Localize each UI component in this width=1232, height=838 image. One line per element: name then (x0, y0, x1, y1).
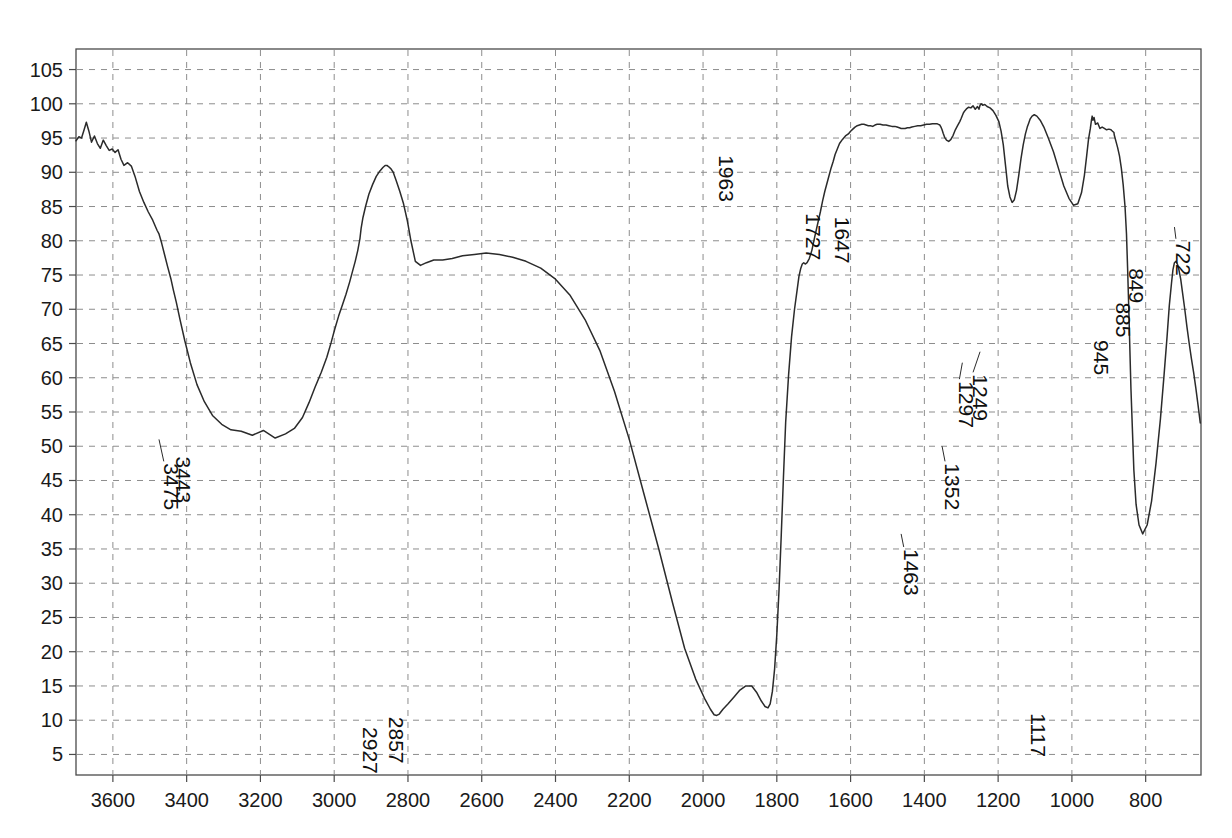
canvas-background (0, 0, 1232, 838)
x-tick-label: 3200 (238, 789, 283, 811)
x-tick-label: 3000 (312, 789, 357, 811)
peak-label: 1249 (969, 374, 992, 421)
y-tick-label: 5 (52, 743, 63, 765)
peak-label: 1463 (900, 549, 923, 596)
y-tick-label: 15 (41, 675, 63, 697)
peak-label: 1117 (1027, 713, 1050, 757)
y-tick-label: 95 (41, 127, 63, 149)
y-tick-label: 45 (41, 469, 63, 491)
peak-label: 3443 (172, 457, 195, 504)
x-tick-label: 2400 (533, 789, 578, 811)
y-tick-label: 80 (41, 230, 63, 252)
y-tick-label: 90 (41, 161, 63, 183)
y-tick-label: 40 (41, 504, 63, 526)
x-tick-label: 1600 (828, 789, 873, 811)
peak-label: 2857 (385, 717, 408, 764)
x-tick-label: 3600 (91, 789, 136, 811)
x-tick-label: 3400 (164, 789, 209, 811)
y-tick-label: 55 (41, 401, 63, 423)
y-tick-label: 50 (41, 435, 63, 457)
ir-spectrum-chart: 5101520253035404550556065707580859095100… (0, 0, 1232, 838)
y-tick-label: 105 (30, 59, 63, 81)
y-tick-label: 20 (41, 641, 63, 663)
peak-label: 1352 (941, 463, 964, 510)
peak-label: 1727 (802, 213, 825, 260)
x-tick-label: 1800 (755, 789, 800, 811)
x-tick-label: 2600 (459, 789, 504, 811)
peak-label: 945 (1090, 340, 1113, 375)
peak-label: 885 (1112, 302, 1135, 337)
y-tick-label: 25 (41, 606, 63, 628)
y-tick-label: 100 (30, 93, 63, 115)
x-tick-label: 2200 (607, 789, 652, 811)
peak-label: 722 (1172, 241, 1195, 276)
x-tick-label: 1200 (976, 789, 1021, 811)
x-tick-label: 1000 (1050, 789, 1095, 811)
peak-label: 849 (1125, 268, 1148, 303)
y-tick-label: 85 (41, 196, 63, 218)
y-tick-label: 70 (41, 298, 63, 320)
x-tick-label: 2800 (386, 789, 431, 811)
y-tick-label: 35 (41, 538, 63, 560)
y-tick-label: 30 (41, 572, 63, 594)
y-tick-label: 65 (41, 333, 63, 355)
peak-label: 1647 (831, 217, 854, 264)
peak-label: 2927 (359, 727, 382, 774)
y-tick-label: 75 (41, 264, 63, 286)
x-tick-label: 800 (1129, 789, 1162, 811)
spectrum-canvas: 5101520253035404550556065707580859095100… (0, 0, 1232, 838)
x-tick-label: 2000 (681, 789, 726, 811)
y-tick-label: 60 (41, 367, 63, 389)
x-tick-label: 1400 (902, 789, 947, 811)
peak-label: 1963 (715, 155, 738, 202)
y-tick-label: 10 (41, 709, 63, 731)
